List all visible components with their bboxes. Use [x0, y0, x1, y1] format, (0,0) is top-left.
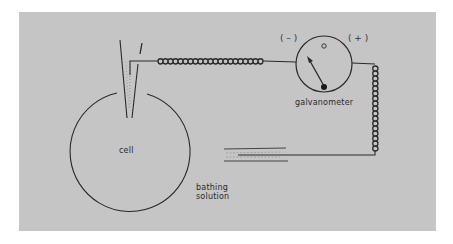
needle-arrowhead: [307, 56, 313, 63]
bathing-solution-label-line2: solution: [196, 192, 229, 201]
bathing-solution-label-line1: bathing: [196, 183, 228, 192]
positive-terminal-label: ( + ): [348, 33, 368, 43]
needle-pivot: [321, 84, 327, 90]
reference-wire: [238, 151, 375, 155]
coil-right: [373, 66, 378, 151]
galvanometer-label: galvanometer: [295, 98, 353, 107]
cell-label: cell: [119, 146, 134, 155]
galvanometer-dial: [296, 36, 352, 92]
circuit-diagram: [0, 0, 453, 244]
electrode-wire: [130, 61, 158, 75]
galvanometer-needle: [310, 61, 324, 86]
zero-mark: [322, 44, 326, 48]
microelectrode: [120, 40, 142, 118]
coil-left: [158, 59, 263, 64]
negative-terminal-label: ( – ): [280, 33, 297, 43]
wire-to-galvanometer: [263, 61, 296, 62]
